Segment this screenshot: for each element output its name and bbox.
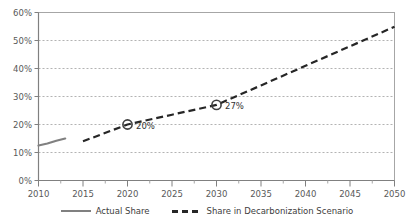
y-tick-label-10: 10% [2, 148, 32, 158]
y-tick-label-20: 20% [2, 120, 32, 130]
x-tick-label-2045: 2045 [332, 189, 368, 199]
x-tick-label-2025: 2025 [154, 189, 190, 199]
x-tick-label-2030: 2030 [199, 189, 235, 199]
x-tick-label-2040: 2040 [288, 189, 324, 199]
data-label-20-percent: 20% [136, 121, 155, 131]
y-tick-label-0: 0% [2, 176, 32, 186]
legend-swatch-solid-icon [61, 210, 91, 213]
chart-container: 60% 50% 40% 30% 20% 10% 0% 2010 2015 202… [0, 0, 414, 221]
chart-legend: Actual Share Share in Decarbonization Sc… [0, 203, 414, 219]
y-tick-label-40: 40% [2, 64, 32, 74]
chart-plot-area [0, 0, 414, 221]
data-label-27-percent: 27% [225, 101, 244, 111]
x-tick-label-2020: 2020 [110, 189, 146, 199]
y-tick-label-60: 60% [2, 8, 32, 18]
legend-item-actual-share: Actual Share [61, 206, 150, 216]
x-tick-label-2035: 2035 [243, 189, 279, 199]
x-tick-label-2010: 2010 [21, 189, 57, 199]
x-tick-label-2050: 2050 [377, 189, 413, 199]
y-tick-label-50: 50% [2, 36, 32, 46]
legend-item-decarbonization-scenario: Share in Decarbonization Scenario [172, 206, 354, 216]
x-tick-label-2015: 2015 [65, 189, 101, 199]
y-tick-label-30: 30% [2, 92, 32, 102]
legend-label-actual-share: Actual Share [96, 206, 150, 216]
legend-label-decarbonization-scenario: Share in Decarbonization Scenario [207, 206, 354, 216]
x-axis-major-ticks [39, 181, 395, 187]
legend-swatch-dashed-icon [172, 210, 202, 213]
